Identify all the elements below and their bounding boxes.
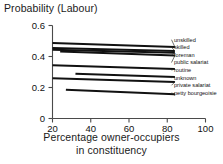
legend-label-foreman: foreman [174, 52, 195, 58]
legend-label-petty-bourgeoisie: petty bourgeoisie [174, 90, 217, 96]
y-tick-label-0.2: 0.2 [32, 82, 45, 93]
chart-figure: Probability (Labour) 0.6 0.4 0.2 0 20 40… [0, 0, 223, 164]
legend-label-public-salariat: public salariat [174, 59, 209, 65]
y-tick-label-0.6: 0.6 [32, 20, 45, 31]
legend-label-unknown: unknown [174, 75, 196, 81]
series-line-unskilled [53, 43, 175, 47]
series-lines [53, 43, 175, 94]
legend-label-unskilled: unskilled [174, 37, 196, 43]
legend-label-skilled: skilled [174, 44, 190, 50]
y-tick-label-0: 0 [40, 113, 45, 124]
series-line-unknown [75, 74, 174, 77]
legend-labels: unskilledskilledforemanpublic salariatro… [172, 37, 217, 96]
x-axis-title-line2: in constituency [0, 144, 223, 157]
y-tick-label-0.4: 0.4 [32, 51, 45, 62]
series-line-routine [53, 65, 175, 69]
series-line-petty-bourgeoisie [66, 90, 175, 94]
legend-label-private-salariat: private salariat [174, 82, 211, 88]
x-axis-title-line1: Percentage owner-occupiers [0, 131, 223, 144]
legend-label-routine: routine [174, 67, 191, 73]
series-line-private-salariat [53, 78, 175, 82]
x-axis-title: Percentage owner-occupiers in constituen… [0, 131, 223, 157]
